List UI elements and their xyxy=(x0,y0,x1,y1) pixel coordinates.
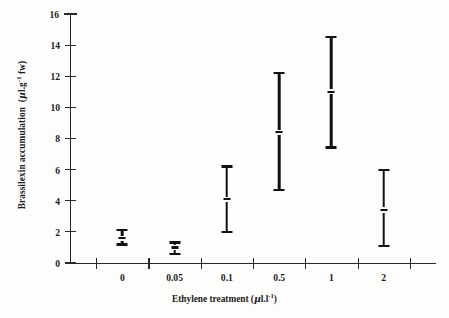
errorbar-cap-upper xyxy=(378,169,389,172)
x-axis-tick xyxy=(358,258,359,269)
y-axis-tick-label: 2 xyxy=(55,226,60,237)
mean-marker xyxy=(119,237,126,239)
mean-marker xyxy=(223,198,230,200)
y-axis-tick-label: 4 xyxy=(55,195,60,206)
y-axis-units-exponent: -1 xyxy=(15,76,22,82)
y-axis-units-rest: l.g xyxy=(17,82,27,92)
y-axis-tick: 0 xyxy=(65,262,76,263)
errorbar-cap-lower xyxy=(169,253,180,256)
x-axis-units-mu: µ xyxy=(254,293,261,304)
x-axis-units-tail: ) xyxy=(274,294,277,304)
y-axis-tick: 16 xyxy=(64,13,77,14)
y-axis-title-text: Brassilexin accumulation (µl.g-1 fw) xyxy=(15,61,27,210)
y-axis-tick-label: 14 xyxy=(50,40,60,51)
mean-marker xyxy=(328,91,335,93)
x-axis-tick-label: 0.1 xyxy=(221,272,233,283)
errorbar-cap-lower xyxy=(221,231,232,234)
y-axis-tick: 10 xyxy=(65,107,76,108)
y-axis-tick-label: 10 xyxy=(50,102,60,113)
errorbar-cap-upper xyxy=(274,72,285,75)
y-axis-title: Brassilexin accumulation (µl.g-1 fw) xyxy=(8,0,34,270)
y-axis-tick: 12 xyxy=(65,76,76,77)
y-axis-tick: 4 xyxy=(65,200,76,201)
y-axis-tick: 6 xyxy=(65,169,76,170)
x-axis-tick-label: 1 xyxy=(329,272,334,283)
y-axis-tick: 8 xyxy=(65,138,76,139)
y-axis-tick-label: 6 xyxy=(55,164,60,175)
errorbar-cap-upper xyxy=(326,36,337,39)
x-axis-tick xyxy=(96,258,97,269)
x-axis-tick-label: 2 xyxy=(381,272,386,283)
y-axis-units-mu: µ xyxy=(16,92,27,99)
x-axis-title-main: Ethylene treatment xyxy=(172,294,251,304)
mean-marker xyxy=(276,131,283,133)
x-axis-tick-label: 0.05 xyxy=(166,272,183,283)
y-axis-tick-label: 0 xyxy=(55,257,60,268)
errorbar-cap-lower xyxy=(326,146,337,149)
y-axis-tick-label: 8 xyxy=(55,133,60,144)
x-axis-tick xyxy=(148,258,149,269)
x-axis-tick xyxy=(253,258,254,269)
y-axis-tick: 14 xyxy=(65,45,76,46)
y-axis-tick: 2 xyxy=(65,231,76,232)
y-axis-title-main: Brassilexin accumulation xyxy=(17,107,27,209)
x-axis-tick-label: 0 xyxy=(120,272,125,283)
y-axis-units-tail: fw) xyxy=(17,61,27,77)
x-axis-tick xyxy=(201,258,202,269)
chart-figure: Brassilexin accumulation (µl.g-1 fw) 024… xyxy=(0,0,449,318)
errorbar-cap-lower xyxy=(378,245,389,248)
errorbar-cap-lower xyxy=(274,189,285,192)
x-axis-tick xyxy=(410,258,411,269)
errorbar-cap-upper xyxy=(169,241,180,244)
errorbar-cap-upper xyxy=(221,165,232,168)
errorbar-cap-lower xyxy=(117,243,128,246)
y-axis-tick-label: 12 xyxy=(50,71,60,82)
x-axis-tick-label: 0.5 xyxy=(273,272,285,283)
x-axis-tick xyxy=(305,258,306,269)
mean-marker xyxy=(171,246,178,248)
errorbar-cap-upper xyxy=(117,229,128,232)
y-axis-units-open: ( xyxy=(17,99,27,102)
plot-area: 0246810121416 00.050.10.512 xyxy=(70,14,436,264)
x-axis-title: Ethylene treatment (µl.l-1) xyxy=(0,292,449,304)
y-axis-tick-label: 16 xyxy=(49,9,59,20)
mean-marker xyxy=(380,209,387,211)
